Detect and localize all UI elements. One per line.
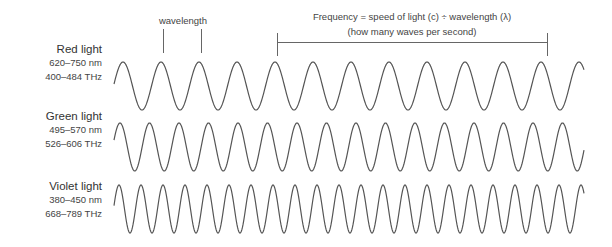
violet-light-label: Violet light 380–450 nm 668–789 THz [45, 179, 102, 221]
frequency-formula: Frequency = speed of light (c) ÷ wavelen… [312, 11, 512, 22]
wavelength-range: 495–570 nm [45, 123, 102, 137]
green-light-label: Green light 495–570 nm 526–606 THz [45, 109, 102, 151]
green-wave [114, 123, 584, 171]
frequency-range: 668–789 THz [45, 207, 102, 221]
frequency-explanation: (how many waves per second) [312, 26, 512, 37]
frequency-range: 526–606 THz [45, 137, 102, 151]
violet-wave [114, 185, 584, 233]
red-light-label: Red light 620–750 nm 400–484 THz [45, 42, 102, 84]
red-wave [114, 62, 584, 110]
wave-name: Violet light [45, 179, 102, 193]
wavelength-range: 620–750 nm [45, 56, 102, 70]
wavelength-marker [164, 29, 202, 53]
wave-name: Red light [45, 42, 102, 56]
frequency-range: 400–484 THz [45, 70, 102, 84]
wave-name: Green light [45, 109, 102, 123]
wavelength-label: wavelength [150, 15, 216, 26]
wavelength-range: 380–450 nm [45, 193, 102, 207]
